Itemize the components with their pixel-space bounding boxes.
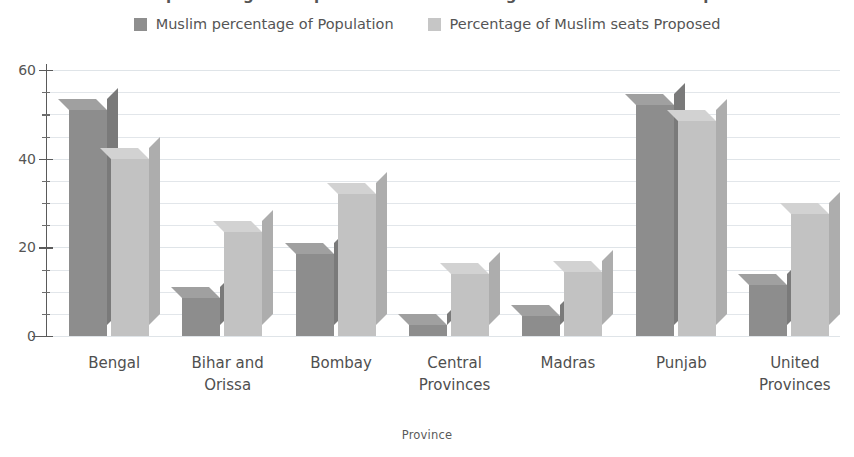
- bar-top-face: [780, 203, 829, 214]
- bar-side-face: [829, 192, 840, 325]
- y-axis-tick-label: 60: [18, 62, 36, 78]
- plot-inner: 0204060: [46, 64, 840, 344]
- bar-front-face: [338, 194, 376, 336]
- bar-seats: [678, 121, 716, 336]
- legend-item-series-2: Percentage of Muslim seats Proposed: [428, 16, 721, 32]
- bar-population: [636, 105, 674, 336]
- bar-seats: [451, 274, 489, 336]
- bar-population: [409, 325, 447, 336]
- bar-seats: [791, 214, 829, 336]
- bar-front-face: [451, 274, 489, 336]
- y-axis-major-tick: [39, 70, 53, 71]
- y-axis-major-tick: [39, 247, 53, 248]
- bar-top-face: [625, 94, 674, 105]
- bar-front-face: [182, 298, 220, 336]
- x-axis-category-label: United Provinces: [728, 352, 854, 396]
- chart-legend: Muslim percentage of Population Percenta…: [0, 16, 854, 32]
- bar-top-face: [285, 243, 334, 254]
- gridline: [46, 70, 840, 71]
- bar-top-face: [327, 183, 376, 194]
- gridline: [46, 92, 840, 93]
- y-axis-minor-tick: [42, 225, 50, 226]
- bar-seats: [111, 159, 149, 336]
- bar-front-face: [636, 105, 674, 336]
- y-axis-minor-tick: [42, 137, 50, 138]
- y-axis-tick-label: 20: [18, 239, 36, 255]
- y-axis-tick-label: 40: [18, 151, 36, 167]
- bar-front-face: [749, 285, 787, 336]
- y-axis-minor-tick: [42, 114, 50, 115]
- bar-population: [296, 254, 334, 336]
- y-axis-major-tick: [39, 336, 53, 337]
- bar-front-face: [522, 316, 560, 336]
- bar-side-face: [602, 250, 613, 325]
- bar-front-face: [111, 159, 149, 336]
- legend-label: Muslim percentage of Population: [156, 16, 394, 32]
- bar-population: [182, 298, 220, 336]
- bar-seats: [338, 194, 376, 336]
- bar-side-face: [489, 252, 500, 325]
- bar-front-face: [409, 325, 447, 336]
- bar-front-face: [678, 121, 716, 336]
- bar-top-face: [440, 263, 489, 274]
- bar-top-face: [738, 274, 787, 285]
- y-axis-line: [46, 64, 47, 337]
- legend-swatch-icon: [134, 18, 147, 31]
- bar-side-face: [716, 99, 727, 325]
- bar-seats: [224, 232, 262, 336]
- gridline: [46, 336, 840, 337]
- y-axis-minor-tick: [42, 181, 50, 182]
- bar-front-face: [791, 214, 829, 336]
- bar-front-face: [296, 254, 334, 336]
- bar-population: [69, 110, 107, 336]
- bar-population: [749, 285, 787, 336]
- bar-side-face: [376, 172, 387, 325]
- bar-population: [522, 316, 560, 336]
- legend-item-series-1: Muslim percentage of Population: [134, 16, 394, 32]
- bar-front-face: [224, 232, 262, 336]
- chart-title: Muslim percentage of Population and Perc…: [0, 0, 854, 4]
- bar-top-face: [58, 99, 107, 110]
- bar-side-face: [262, 210, 273, 325]
- y-axis-minor-tick: [42, 292, 50, 293]
- bar-front-face: [69, 110, 107, 336]
- bar-top-face: [398, 314, 447, 325]
- bar-top-face: [213, 221, 262, 232]
- y-axis-minor-tick: [42, 270, 50, 271]
- bar-side-face: [149, 137, 160, 325]
- y-axis-minor-tick: [42, 314, 50, 315]
- y-axis-major-tick: [39, 159, 53, 160]
- bar-chart: Muslim percentage of Population and Perc…: [0, 0, 854, 457]
- bar-front-face: [564, 272, 602, 336]
- y-axis-tick-label: 0: [27, 328, 36, 344]
- legend-swatch-icon: [428, 18, 441, 31]
- y-axis-minor-tick: [42, 92, 50, 93]
- y-axis-minor-tick: [42, 203, 50, 204]
- legend-label: Percentage of Muslim seats Proposed: [450, 16, 721, 32]
- x-axis-category-labels: BengalBihar and OrissaBombayCentral Prov…: [46, 352, 840, 412]
- plot-area: 0204060: [46, 64, 840, 344]
- bar-top-face: [171, 287, 220, 298]
- x-axis-title: Province: [0, 428, 854, 442]
- bar-seats: [564, 272, 602, 336]
